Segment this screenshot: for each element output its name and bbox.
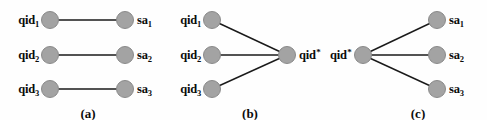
panel-a-qid-node-2[interactable]	[41, 46, 59, 64]
label-subscript: 1	[148, 18, 152, 28]
panel-caption-c: (c)	[411, 106, 425, 120]
panel-a-qid-node-3[interactable]	[41, 80, 59, 98]
label-base: qid	[18, 13, 35, 27]
label-base: qid	[330, 48, 347, 62]
label-base: qid	[180, 13, 197, 27]
label-subscript: 2	[148, 53, 152, 63]
panel-c-edge-qidstar-sa3	[363, 55, 437, 89]
panel-b-qid-node-2[interactable]	[203, 46, 221, 64]
panel-a-sa-node-1[interactable]	[116, 11, 134, 29]
edge-layer	[0, 0, 487, 120]
panel-caption-b: (b)	[242, 106, 258, 120]
figure-canvas: qid1qid2qid3sa1sa2sa3qid1qid2qid3qid*qid…	[0, 0, 487, 120]
label-subscript: 3	[148, 87, 152, 97]
label-base: qid	[299, 48, 316, 62]
panel-a-qid-node-1[interactable]	[41, 11, 59, 29]
panel-c-qid-star-node-label: qid*	[330, 49, 351, 62]
panel-a-sa-node-3-label: sa3	[137, 83, 152, 96]
panel-caption-a: (a)	[80, 106, 95, 120]
label-superscript-asterisk: *	[347, 46, 351, 56]
label-subscript: 3	[460, 87, 464, 97]
label-subscript: 3	[35, 87, 39, 97]
panel-b-edge-qid3-qidstar	[212, 55, 287, 89]
panel-a-sa-node-2-label: sa2	[137, 49, 152, 62]
label-base: sa	[137, 13, 148, 27]
label-base: qid	[18, 82, 35, 96]
panel-c-sa-node-2-label: sa2	[449, 49, 464, 62]
panel-b-qid-node-1[interactable]	[203, 11, 221, 29]
label-subscript: 1	[197, 18, 201, 28]
panel-a-sa-node-3[interactable]	[116, 80, 134, 98]
panel-c-edge-qidstar-sa1	[363, 20, 437, 55]
panel-b-edge-qid1-qidstar	[212, 20, 287, 55]
panel-c-sa-node-1-label: sa1	[449, 14, 464, 27]
panel-a-qid-node-2-label: qid2	[18, 49, 39, 62]
label-base: sa	[449, 13, 460, 27]
label-subscript: 1	[35, 18, 39, 28]
panel-c-sa-node-1[interactable]	[428, 11, 446, 29]
label-subscript: 1	[460, 18, 464, 28]
label-base: sa	[137, 82, 148, 96]
panel-a-qid-node-1-label: qid1	[18, 14, 39, 27]
panel-c-sa-node-3[interactable]	[428, 80, 446, 98]
panel-a-sa-node-1-label: sa1	[137, 14, 152, 27]
label-base: sa	[137, 48, 148, 62]
label-base: qid	[180, 82, 197, 96]
label-base: qid	[180, 48, 197, 62]
label-subscript: 2	[35, 53, 39, 63]
panel-b-qid-node-3[interactable]	[203, 80, 221, 98]
label-base: sa	[449, 82, 460, 96]
panel-b-qid-star-node[interactable]	[278, 46, 296, 64]
panel-c-sa-node-3-label: sa3	[449, 83, 464, 96]
label-base: sa	[449, 48, 460, 62]
label-subscript: 2	[460, 53, 464, 63]
panel-b-qid-node-2-label: qid2	[180, 49, 201, 62]
label-subscript: 2	[197, 53, 201, 63]
panel-a-qid-node-3-label: qid3	[18, 83, 39, 96]
label-base: qid	[18, 48, 35, 62]
panel-a-sa-node-2[interactable]	[116, 46, 134, 64]
panel-c-qid-star-node[interactable]	[354, 46, 372, 64]
panel-b-qid-node-1-label: qid1	[180, 14, 201, 27]
label-superscript-asterisk: *	[316, 46, 320, 56]
panel-b-qid-star-node-label: qid*	[299, 49, 320, 62]
label-subscript: 3	[197, 87, 201, 97]
panel-b-qid-node-3-label: qid3	[180, 83, 201, 96]
panel-c-sa-node-2[interactable]	[428, 46, 446, 64]
